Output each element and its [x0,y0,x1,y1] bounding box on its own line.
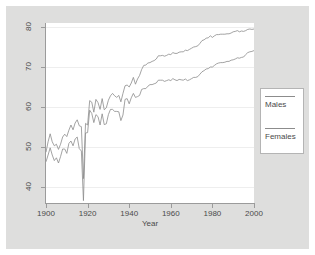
x-tick-label-1960: 1960 [156,209,186,218]
y-tick-label-50: 50 [24,137,33,157]
x-tick-2000 [254,204,255,208]
y-axis-line [45,23,46,204]
y-tick-80 [41,27,45,28]
x-tick-label-1940: 1940 [114,209,144,218]
x-axis-line [45,203,255,204]
legend-label-females: Females [265,132,301,142]
legend-line-swatch-females [265,128,295,129]
x-tick-1900 [46,204,47,208]
y-tick-label-70: 70 [24,57,33,77]
series-line-males [46,51,254,201]
y-tick-70 [41,67,45,68]
graph-canvas: 4050607080 190019201940196019802000 Year… [6,6,309,249]
y-tick-label-80: 80 [24,17,33,37]
series-lines [46,29,254,201]
legend-line-swatch-males [265,96,295,97]
x-tick-1920 [88,204,89,208]
series-line-females [46,29,254,179]
legend-label-males: Males [265,100,301,110]
y-tick-40 [41,187,45,188]
y-tick-label-40: 40 [24,177,33,197]
gridlines [46,28,254,188]
chart-legend: Males Females [260,88,304,154]
legend-entry-males: Males [265,96,301,110]
y-tick-50 [41,147,45,148]
y-tick-60 [41,107,45,108]
x-tick-label-1900: 1900 [31,209,61,218]
x-tick-1940 [129,204,130,208]
y-tick-label-60: 60 [24,97,33,117]
x-tick-label-2000: 2000 [239,209,269,218]
plot-svg [46,23,254,203]
x-tick-label-1920: 1920 [73,209,103,218]
x-tick-label-1980: 1980 [197,209,227,218]
x-axis-title: Year [46,219,254,228]
x-tick-1960 [171,204,172,208]
plot-area [46,23,254,203]
legend-entry-females: Females [265,128,301,142]
x-tick-1980 [212,204,213,208]
chart-screenshot: 4050607080 190019201940196019802000 Year… [0,0,315,255]
